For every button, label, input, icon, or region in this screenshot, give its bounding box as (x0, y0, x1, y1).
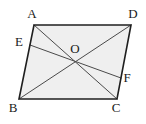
vertex-label-a: A (27, 6, 37, 21)
vertex-label-d: D (128, 6, 137, 21)
point-label-e: E (15, 34, 23, 49)
vertex-label-c: C (112, 100, 121, 115)
point-label-f: F (123, 70, 130, 85)
parallelogram-diagram: A D B C O E F (0, 0, 146, 124)
point-label-o: O (70, 41, 79, 56)
vertex-label-b: B (9, 100, 18, 115)
geometry-figure: A D B C O E F (0, 0, 146, 124)
